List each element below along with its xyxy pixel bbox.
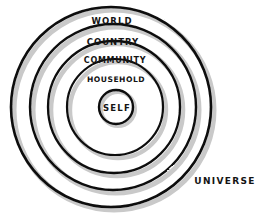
ring-label-community: COMMUNITY xyxy=(84,57,146,65)
ring-label-world: WORLD xyxy=(91,17,132,26)
concentric-circles-diagram: WORLD COUNTRY COMMUNITY HOUSEHOLD SELF U… xyxy=(0,0,262,217)
outside-label-universe: UNIVERSE xyxy=(194,177,255,186)
ring-label-household: HOUSEHOLD xyxy=(87,76,145,84)
ring-label-country: COUNTRY xyxy=(87,38,140,47)
ring-label-self: SELF xyxy=(103,104,131,113)
